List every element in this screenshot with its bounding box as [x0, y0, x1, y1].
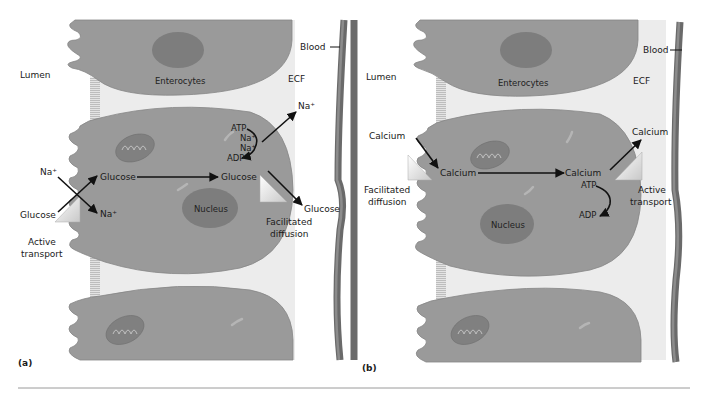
label-adp: ADP [227, 153, 245, 163]
label-na-ecf: Na⁺ [298, 101, 315, 111]
label-calcium-basal: Calcium [565, 168, 601, 178]
label-glucose-lumen: Glucose [20, 210, 56, 220]
panel-label-b: (b) [362, 363, 377, 373]
enterocyte-bottom [416, 288, 641, 362]
label-glucose-apical: Glucose [100, 172, 136, 182]
label-na-pump-2: Na⁺ [240, 143, 256, 153]
label-facilitated-diffusion-2: diffusion [270, 229, 309, 239]
label-glucose-blood: Glucose [304, 204, 340, 214]
label-enterocytes: Enterocytes [155, 76, 206, 86]
label-active-transport-2: transport [21, 249, 63, 259]
label-na-pump-1: Na⁺ [240, 133, 256, 143]
diagram-canvas: Lumen ECF Blood Enterocytes Nucleus Na⁺ … [0, 0, 703, 397]
label-atp: ATP [231, 123, 246, 133]
panel-b: Lumen ECF Blood Enterocytes Nucleus Calc… [354, 20, 682, 373]
label-facilitated-diffusion-2: diffusion [368, 197, 407, 207]
panel-label-a: (a) [18, 358, 32, 368]
nucleus-top [500, 32, 552, 68]
label-active-transport-2: transport [630, 197, 672, 207]
label-atp: ATP [581, 180, 596, 190]
enterocyte-bottom [69, 286, 293, 360]
panel-a: Lumen ECF Blood Enterocytes Nucleus Na⁺ … [18, 20, 344, 368]
label-facilitated-diffusion-1: Facilitated [364, 185, 410, 195]
label-lumen: Lumen [20, 70, 51, 80]
label-lumen: Lumen [366, 72, 397, 82]
label-adp: ADP [579, 210, 597, 220]
label-na-lumen: Na⁺ [40, 167, 57, 177]
label-glucose-basal: Glucose [221, 172, 257, 182]
label-blood: Blood [643, 45, 668, 55]
label-nucleus: Nucleus [491, 220, 525, 230]
label-active-transport-1: Active [28, 237, 56, 247]
label-ecf: ECF [288, 74, 305, 84]
active-transport-protein [55, 196, 80, 222]
label-na-cell: Na⁺ [100, 209, 117, 219]
enterocyte-middle [69, 107, 293, 274]
label-calcium-apical: Calcium [440, 168, 476, 178]
label-calcium-lumen: Calcium [369, 131, 405, 141]
label-ecf: ECF [633, 76, 650, 86]
label-enterocytes: Enterocytes [498, 78, 549, 88]
label-calcium-ecf: Calcium [632, 127, 668, 137]
label-active-transport-1: Active [638, 185, 666, 195]
nucleus-top [152, 32, 204, 68]
label-nucleus: Nucleus [194, 204, 228, 214]
label-blood: Blood [300, 42, 325, 52]
label-facilitated-diffusion-1: Facilitated [266, 217, 312, 227]
